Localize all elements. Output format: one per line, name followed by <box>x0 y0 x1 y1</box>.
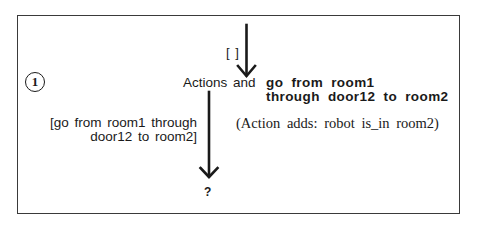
arrow-down-icon <box>238 25 255 76</box>
arrows-layer <box>0 0 480 229</box>
arrow-down-icon <box>201 92 218 177</box>
